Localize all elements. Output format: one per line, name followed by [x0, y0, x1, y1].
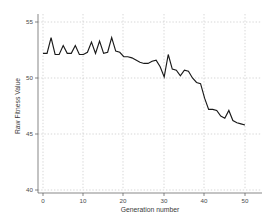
x-tick-label-30: 30	[161, 197, 168, 204]
grid-lines	[38, 14, 262, 190]
y-axis-title: Raw Fitness Value	[14, 78, 21, 134]
data-series-line	[43, 38, 245, 125]
y-tick-label-50: 50	[26, 74, 33, 81]
y-tick-label-40: 40	[26, 186, 33, 193]
line-chart: 55 50 45 40 0 10 20 30 40 50 Generation …	[0, 0, 270, 218]
x-axis-title: Generation number	[121, 206, 180, 213]
axes	[38, 14, 262, 193]
x-tick-marks	[43, 193, 245, 196]
x-tick-label-0: 0	[41, 197, 45, 204]
chart-screenshot: 55 50 45 40 0 10 20 30 40 50 Generation …	[0, 0, 270, 218]
y-tick-labels: 55 50 45 40	[26, 18, 33, 193]
y-tick-label-45: 45	[26, 130, 33, 137]
x-tick-label-50: 50	[242, 197, 249, 204]
x-tick-label-20: 20	[120, 197, 127, 204]
x-tick-label-10: 10	[80, 197, 87, 204]
x-tick-labels: 0 10 20 30 40 50	[41, 197, 249, 204]
y-tick-marks	[35, 22, 38, 190]
x-tick-label-40: 40	[201, 197, 208, 204]
y-tick-label-55: 55	[26, 18, 33, 25]
